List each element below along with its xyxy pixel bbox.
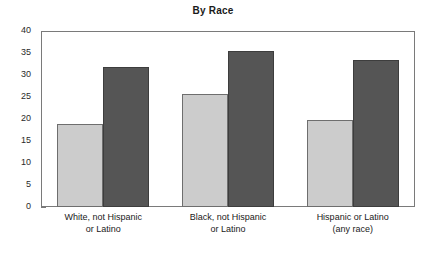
bar-group — [307, 31, 399, 207]
bar — [353, 60, 399, 207]
y-axis-tick: 25 — [0, 97, 41, 98]
y-axis-tick: 20 — [0, 119, 41, 120]
y-axis-tick-label: 20 — [3, 113, 31, 124]
bar-chart: By Race 4035302520151050 White, not Hisp… — [0, 0, 426, 258]
bars-layer — [41, 31, 415, 207]
y-axis-tick-label: 10 — [3, 157, 31, 168]
x-axis-category-label: White, not Hispanicor Latino — [33, 212, 173, 235]
y-axis-tick-label: 35 — [3, 47, 31, 58]
x-axis-category-label: Black, not Hispanicor Latino — [158, 212, 298, 235]
y-axis-tick: 15 — [0, 141, 41, 142]
bar — [182, 94, 228, 207]
chart-title: By Race — [0, 5, 426, 16]
y-axis-tick: 10 — [0, 163, 41, 164]
x-axis-category-labels: White, not Hispanicor LatinoBlack, not H… — [41, 212, 415, 256]
y-axis-tick: 40 — [0, 31, 41, 32]
x-axis-category-label-line: White, not Hispanic — [33, 212, 173, 224]
bar — [228, 51, 274, 207]
y-axis-tick: 0 — [0, 207, 41, 208]
y-axis-tick: 5 — [0, 185, 41, 186]
bar-group — [182, 31, 274, 207]
y-axis-tick-label: 0 — [3, 201, 31, 212]
x-axis-category-label: Hispanic or Latino(any race) — [283, 212, 423, 235]
x-axis-category-label-line: (any race) — [283, 224, 423, 236]
y-axis-tick: 35 — [0, 53, 41, 54]
y-axis-tick-label: 25 — [3, 91, 31, 102]
y-axis-tick-label: 30 — [3, 69, 31, 80]
y-axis-tick: 30 — [0, 75, 41, 76]
x-axis-category-label-line: Black, not Hispanic — [158, 212, 298, 224]
y-axis-tick-mark — [41, 207, 46, 208]
x-axis-category-label-line: Hispanic or Latino — [283, 212, 423, 224]
y-axis-tick-label: 5 — [3, 179, 31, 190]
bar — [307, 120, 353, 207]
y-axis-tick-label: 15 — [3, 135, 31, 146]
bar-group — [57, 31, 149, 207]
x-axis-category-label-line: or Latino — [33, 224, 173, 236]
y-axis-tick-label: 40 — [3, 25, 31, 36]
x-axis-category-label-line: or Latino — [158, 224, 298, 236]
bar — [57, 124, 103, 207]
bar — [103, 67, 149, 207]
